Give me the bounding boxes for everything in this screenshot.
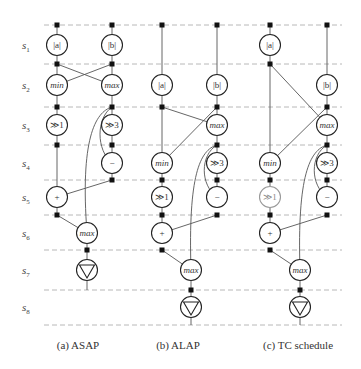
panel-alap: |a| |b| max min ≫3 ≫1 − + max <box>152 23 228 326</box>
svg-text:≫3: ≫3 <box>210 158 224 168</box>
svg-text:|b|: |b| <box>108 40 116 50</box>
node-subtract: − <box>317 187 338 208</box>
node-shift-right-3: ≫3 <box>317 153 338 174</box>
stage-label-s1: s1 <box>22 39 30 54</box>
svg-text:+: + <box>159 228 164 238</box>
node-max-final: max <box>77 223 98 244</box>
svg-text:≫1: ≫1 <box>155 192 169 202</box>
svg-text:min: min <box>263 158 277 168</box>
svg-text:|a|: |a| <box>266 40 274 50</box>
sink-icon <box>290 297 311 318</box>
svg-text:|a|: |a| <box>158 80 166 90</box>
node-abs-b: |b| <box>207 75 228 96</box>
node-max: max <box>207 115 228 136</box>
svg-text:max: max <box>80 228 95 238</box>
svg-text:max: max <box>184 265 199 275</box>
sink-icon <box>181 297 202 318</box>
node-max: max <box>317 115 338 136</box>
node-min: min <box>260 153 281 174</box>
stage-label-s8: s8 <box>22 301 30 316</box>
svg-text:min: min <box>155 158 169 168</box>
node-shift-right-3: ≫3 <box>207 153 228 174</box>
node-min: min <box>152 153 173 174</box>
svg-text:+: + <box>54 192 59 202</box>
schedule-diagram: s1 s2 s3 s4 s5 s6 s7 s8 <box>0 0 361 369</box>
node-abs-a: |a| <box>152 75 173 96</box>
svg-text:max: max <box>320 120 335 130</box>
svg-text:|b|: |b| <box>323 80 331 90</box>
node-abs-b: |b| <box>317 75 338 96</box>
svg-text:−: − <box>214 192 219 202</box>
node-shift-right-1: ≫1 <box>47 115 68 136</box>
stage-labels: s1 s2 s3 s4 s5 s6 s7 s8 <box>22 39 30 316</box>
caption-alap: (b) ALAP <box>156 339 200 352</box>
node-subtract: − <box>207 187 228 208</box>
svg-text:|a|: |a| <box>53 40 61 50</box>
node-abs-a: |a| <box>260 35 281 56</box>
svg-text:≫3: ≫3 <box>105 120 119 130</box>
svg-text:|b|: |b| <box>213 80 221 90</box>
svg-text:−: − <box>109 158 114 168</box>
svg-text:+: + <box>267 228 272 238</box>
stage-label-s2: s2 <box>22 79 30 94</box>
stage-label-s5: s5 <box>22 191 30 206</box>
stage-label-s6: s6 <box>22 227 30 242</box>
panel-tc-schedule: |a| |b| max min ≫3 ≫1 − + max <box>260 23 338 326</box>
node-max-final: max <box>181 260 202 281</box>
sink-icon <box>77 260 98 281</box>
caption-asap: (a) ASAP <box>57 339 99 352</box>
svg-text:−: − <box>324 192 329 202</box>
node-shift-right-1: ≫1 <box>152 187 173 208</box>
node-max-final: max <box>290 260 311 281</box>
node-min: min <box>47 75 68 96</box>
node-max: max <box>102 75 123 96</box>
node-shift-right-3: ≫3 <box>102 115 123 136</box>
stage-label-s7: s7 <box>22 264 30 279</box>
node-add: + <box>47 187 68 208</box>
svg-text:≫3: ≫3 <box>320 158 334 168</box>
svg-text:max: max <box>293 265 308 275</box>
svg-text:≫1: ≫1 <box>50 120 64 130</box>
node-shift-right-1-faded: ≫1 <box>260 187 281 208</box>
node-add: + <box>260 223 281 244</box>
node-add: + <box>152 223 173 244</box>
stage-label-s4: s4 <box>22 157 30 172</box>
node-abs-a: |a| <box>47 35 68 56</box>
caption-tc-schedule: (c) TC schedule <box>263 339 333 352</box>
svg-text:min: min <box>50 80 64 90</box>
svg-text:max: max <box>105 80 120 90</box>
node-subtract: − <box>102 153 123 174</box>
svg-text:≫1: ≫1 <box>263 192 277 202</box>
stage-label-s3: s3 <box>22 119 30 134</box>
node-abs-b: |b| <box>102 35 123 56</box>
svg-text:max: max <box>210 120 225 130</box>
